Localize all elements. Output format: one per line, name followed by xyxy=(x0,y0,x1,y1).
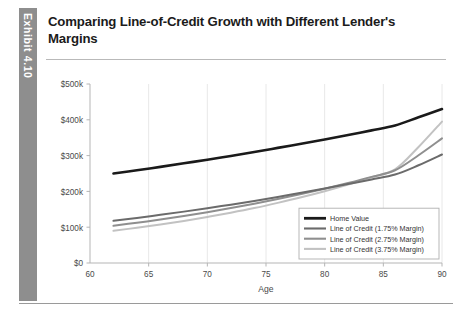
legend-label: Line of Credit (3.75% Margin) xyxy=(330,245,424,254)
exhibit-tab: Exhibit 4.10 xyxy=(19,8,37,301)
y-tick-label: $100k xyxy=(61,224,84,233)
legend-label: Line of Credit (2.75% Margin) xyxy=(330,235,424,244)
x-axis-label: Age xyxy=(258,284,274,294)
exhibit-page: Exhibit 4.10 Comparing Line-of-Credit Gr… xyxy=(0,0,467,324)
x-tick-label: 80 xyxy=(320,270,330,279)
page-title: Comparing Line-of-Credit Growth with Dif… xyxy=(48,13,440,47)
series-line xyxy=(113,109,442,173)
legend-label: Home Value xyxy=(330,214,369,223)
title-area: Comparing Line-of-Credit Growth with Dif… xyxy=(48,13,440,57)
chart-plot-area: $0$100k$200k$300k$400k$500k6065707580859… xyxy=(46,63,450,297)
page-bottom-divider xyxy=(19,303,453,304)
x-tick-label: 90 xyxy=(437,270,447,279)
x-tick-label: 60 xyxy=(85,270,95,279)
x-tick-label: 85 xyxy=(379,270,389,279)
y-tick-label: $200k xyxy=(61,188,84,197)
line-chart: $0$100k$200k$300k$400k$500k6065707580859… xyxy=(46,63,450,297)
exhibit-label: Exhibit 4.10 xyxy=(19,8,37,79)
y-tick-label: $400k xyxy=(61,116,84,125)
exhibit-card: Comparing Line-of-Credit Growth with Dif… xyxy=(37,8,455,301)
x-tick-label: 70 xyxy=(203,270,213,279)
y-tick-label: $0 xyxy=(74,259,84,268)
legend-label: Line of Credit (1.75% Margin) xyxy=(330,224,424,233)
x-tick-label: 65 xyxy=(144,270,154,279)
y-tick-label: $300k xyxy=(61,152,84,161)
title-divider xyxy=(46,59,446,60)
x-tick-label: 75 xyxy=(261,270,271,279)
y-tick-label: $500k xyxy=(61,80,84,89)
